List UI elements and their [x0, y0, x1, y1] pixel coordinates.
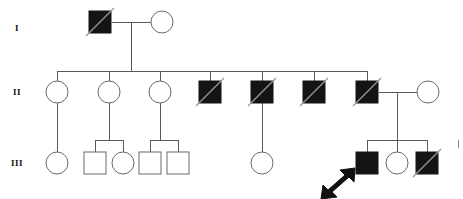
individual-iii-5[interactable] — [167, 152, 189, 174]
individual-ii-4[interactable] — [196, 78, 224, 106]
symbol-circle-unaffected-ii1[interactable] — [46, 81, 68, 103]
generation-label-iii: III — [11, 158, 23, 168]
individual-iii-3[interactable] — [112, 152, 134, 174]
generation-label-ii: II — [13, 87, 21, 97]
individual-ii-2[interactable] — [98, 81, 120, 103]
individual-i-2[interactable] — [151, 11, 173, 33]
symbol-square-unaffected-iii5[interactable] — [167, 152, 189, 174]
symbol-square-affected-iii7[interactable] — [356, 152, 378, 174]
generation-label-i: I — [15, 23, 19, 33]
symbol-circle-unaffected-ii3[interactable] — [149, 81, 171, 103]
individual-ii-3[interactable] — [149, 81, 171, 103]
generation-label-group: I II III — [11, 23, 23, 168]
individual-ii-5[interactable] — [248, 78, 276, 106]
symbol-square-unaffected-iii4[interactable] — [139, 152, 161, 174]
individual-iii-7-proband[interactable] — [356, 152, 378, 174]
individual-iii-6[interactable] — [251, 152, 273, 174]
individual-i-1[interactable] — [86, 8, 114, 36]
individual-iii-1[interactable] — [46, 152, 68, 174]
individual-iii-9[interactable] — [413, 149, 441, 177]
individual-ii-7[interactable] — [353, 78, 381, 106]
symbol-circle-unaffected-iii3[interactable] — [112, 152, 134, 174]
symbol-circle-unaffected-i2[interactable] — [151, 11, 173, 33]
individual-iii-8[interactable] — [386, 152, 408, 174]
symbol-circle-unaffected-iii6[interactable] — [251, 152, 273, 174]
individual-iii-4[interactable] — [139, 152, 161, 174]
symbol-circle-unaffected-ii2[interactable] — [98, 81, 120, 103]
symbol-circle-unaffected-iii8[interactable] — [386, 152, 408, 174]
symbol-square-unaffected-iii2[interactable] — [84, 152, 106, 174]
individual-ii-8[interactable] — [417, 81, 439, 103]
symbol-circle-unaffected-iii1[interactable] — [46, 152, 68, 174]
individual-ii-1[interactable] — [46, 81, 68, 103]
proband-arrow-group — [321, 168, 355, 199]
proband-arrow-icon — [321, 168, 355, 199]
pedigree-canvas: I II III — [0, 0, 463, 199]
generation-iii-symbols — [46, 149, 441, 177]
individual-ii-6[interactable] — [300, 78, 328, 106]
individual-iii-2[interactable] — [84, 152, 106, 174]
symbol-circle-unaffected-ii8[interactable] — [417, 81, 439, 103]
pedigree-chart: I II III — [0, 0, 463, 199]
